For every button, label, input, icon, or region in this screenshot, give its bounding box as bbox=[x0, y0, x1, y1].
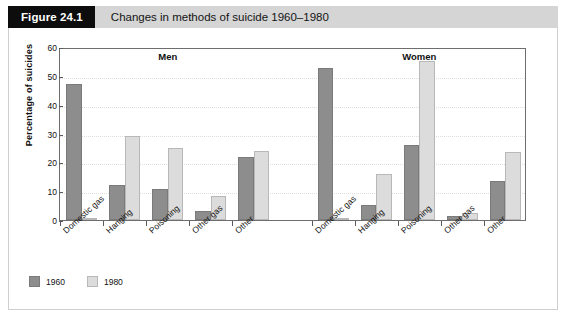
legend-swatch-1960 bbox=[29, 276, 40, 287]
y-axis-tick-mark bbox=[59, 48, 63, 49]
gridline bbox=[60, 78, 525, 79]
y-axis-tick-mark bbox=[59, 135, 63, 136]
plot-frame: MenWomen bbox=[59, 48, 526, 221]
y-axis-tick-mark bbox=[59, 163, 63, 164]
x-axis-tick-mark bbox=[441, 221, 442, 226]
chart-legend: 19601980 bbox=[29, 276, 123, 287]
legend-label-1980: 1980 bbox=[104, 277, 123, 287]
y-axis-tick-label: 30 bbox=[37, 130, 57, 140]
y-axis-tick-label: 20 bbox=[37, 158, 57, 168]
panel-title-men: Men bbox=[158, 51, 177, 62]
x-axis-tick-mark bbox=[312, 221, 313, 226]
figure-panel: Percentage of suicides 0102030405060 Men… bbox=[8, 28, 558, 310]
bar-women-poisoning-1980 bbox=[419, 61, 435, 220]
gridline bbox=[60, 107, 525, 108]
bar-men-other-1960 bbox=[238, 157, 254, 220]
y-axis-tick-label: 0 bbox=[37, 216, 57, 226]
legend-label-1960: 1960 bbox=[46, 277, 65, 287]
panel-title-women: Women bbox=[402, 51, 436, 62]
y-axis-tick-label: 40 bbox=[37, 101, 57, 111]
y-axis-tick-label: 10 bbox=[37, 187, 57, 197]
y-axis-tick-mark bbox=[59, 192, 63, 193]
y-axis-tick-label: 60 bbox=[37, 43, 57, 53]
y-axis-tick-mark bbox=[59, 106, 63, 107]
legend-swatch-1980 bbox=[87, 276, 98, 287]
legend-entry-1980: 1980 bbox=[87, 276, 123, 287]
legend-entry-1960: 1960 bbox=[29, 276, 65, 287]
figure-number: Figure 24.1 bbox=[8, 6, 95, 28]
bar-men-domestic-gas-1960 bbox=[66, 84, 82, 220]
x-axis-tick-mark bbox=[103, 221, 104, 226]
y-axis-title: Percentage of suicides bbox=[24, 35, 34, 155]
x-axis-tick-mark bbox=[398, 221, 399, 226]
x-axis-tick-mark bbox=[189, 221, 190, 226]
x-axis-tick-mark bbox=[484, 221, 485, 226]
bar-women-other-1980 bbox=[505, 152, 521, 220]
y-axis-tick-labels: 0102030405060 bbox=[35, 48, 57, 221]
bar-women-poisoning-1960 bbox=[404, 145, 420, 220]
x-axis-tick-mark bbox=[232, 221, 233, 226]
figure-caption-bar: Figure 24.1 Changes in methods of suicid… bbox=[8, 6, 558, 28]
y-axis-tick-label: 50 bbox=[37, 72, 57, 82]
bar-women-domestic-gas-1960 bbox=[318, 68, 334, 220]
x-axis-tick-mark bbox=[355, 221, 356, 226]
bar-women-other-1960 bbox=[490, 181, 506, 220]
plot-area: MenWomen bbox=[60, 49, 525, 220]
bar-men-other-1980 bbox=[254, 151, 270, 220]
x-axis-tick-mark bbox=[146, 221, 147, 226]
x-axis-tick-mark bbox=[60, 221, 61, 226]
y-axis-tick-mark bbox=[59, 77, 63, 78]
figure-caption-text: Changes in methods of suicide 1960–1980 bbox=[95, 6, 329, 28]
